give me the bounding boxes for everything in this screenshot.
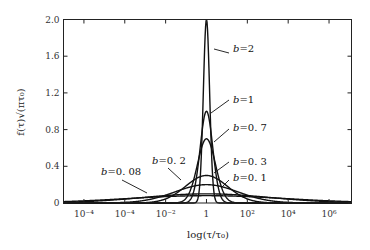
label-leader [211,100,229,113]
curve-label: b=0. 2 [152,155,186,166]
label-leader [214,49,229,53]
y-tick-label: 0.8 [45,125,60,135]
curve-label: b=0. 1 [233,172,267,183]
x-tick-label: 10⁻² [156,209,176,219]
x-tick-label: 10⁻⁴ [115,209,135,219]
y-tick-label: 1.2 [45,88,59,98]
y-tick-label: 1.6 [45,51,60,61]
x-tick-label: 1 [204,209,210,219]
chart: 00.40.81.21.62.0 10⁻⁴10⁻⁴10⁻²110²10⁴10⁶ … [0,0,370,250]
y-tick-label: 0.4 [45,161,60,171]
y-axis: 00.40.81.21.62.0 [45,15,351,209]
x-tick-label: 10⁶ [322,209,337,219]
label-leader [122,180,147,193]
x-tick-label: 10² [240,209,255,219]
x-axis-title: log(τ/τ₀) [187,229,229,240]
x-tick-label: 10⁻⁴ [74,209,94,219]
label-leader [168,168,181,180]
x-axis: 10⁻⁴10⁻⁴10⁻²110²10⁴10⁶ [74,20,337,220]
curve-label: b=2 [233,43,254,54]
curve-label: b=0. 7 [233,122,267,133]
curve-label: b=0. 08 [101,166,141,177]
curve-b-1 [64,111,352,203]
x-tick-label: 10⁴ [281,209,296,219]
y-axis-title: f(τ)√(πτ₀) [15,88,26,135]
curve-labels: b=2b=1b=0. 7b=0. 3b=0. 2b=0. 1b=0. 08 [101,43,267,193]
curve-b-0-3 [64,175,352,203]
y-tick-label: 2.0 [45,15,60,25]
label-leader [214,129,229,142]
curve-label: b=1 [233,94,254,105]
y-tick-label: 0 [54,198,60,208]
curve-label: b=0. 3 [233,156,267,167]
